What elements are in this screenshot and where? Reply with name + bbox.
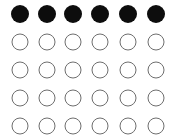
circle-open-r3c3 xyxy=(65,62,82,79)
circle-open-r2c3 xyxy=(65,34,82,51)
circle-open-r3c5 xyxy=(120,62,137,79)
circle-open-r4c2 xyxy=(39,90,56,107)
circle-filled-r1c6 xyxy=(147,5,165,23)
circle-open-r2c1 xyxy=(12,34,29,51)
circle-open-r4c1 xyxy=(12,90,29,107)
circle-open-r3c1 xyxy=(12,62,29,79)
circle-grid xyxy=(0,0,178,140)
circle-filled-r1c3 xyxy=(64,5,82,23)
circle-open-r2c5 xyxy=(120,34,137,51)
circle-open-r5c4 xyxy=(92,118,109,135)
circle-open-r2c4 xyxy=(92,34,109,51)
circle-open-r4c4 xyxy=(92,90,109,107)
circle-open-r4c5 xyxy=(120,90,137,107)
circle-filled-r1c1 xyxy=(11,5,29,23)
circle-filled-r1c4 xyxy=(91,5,109,23)
circle-open-r2c2 xyxy=(39,34,56,51)
circle-open-r5c2 xyxy=(39,118,56,135)
circle-open-r2c6 xyxy=(148,34,165,51)
circle-open-r3c6 xyxy=(148,62,165,79)
circle-open-r3c4 xyxy=(92,62,109,79)
circle-open-r5c6 xyxy=(148,118,165,135)
circle-filled-r1c5 xyxy=(119,5,137,23)
circle-open-r5c1 xyxy=(12,118,29,135)
circle-open-r4c6 xyxy=(148,90,165,107)
circle-open-r5c3 xyxy=(65,118,82,135)
circle-filled-r1c2 xyxy=(38,5,56,23)
circle-open-r3c2 xyxy=(39,62,56,79)
circle-open-r5c5 xyxy=(120,118,137,135)
circle-open-r4c3 xyxy=(65,90,82,107)
